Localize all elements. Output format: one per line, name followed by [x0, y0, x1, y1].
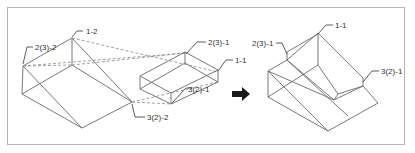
- label-mid-3-2-1: 3(2)-1: [188, 85, 210, 94]
- label-1-2: 1-2: [86, 27, 98, 36]
- label-mid-1-1: 1-1: [235, 56, 247, 65]
- label-3-2-2: 3(2)-2: [147, 113, 169, 122]
- assembly-diagram: 2(3)-2 1-2 3(2)-2 2(3)-1 1-1 3(2)-1 1-1 …: [0, 0, 415, 153]
- label-right-2-3-1: 2(3)-1: [252, 39, 274, 48]
- label-right-3-2-1: 3(2)-1: [381, 67, 403, 76]
- annotation-labels: 2(3)-2 1-2 3(2)-2 2(3)-1 1-1 3(2)-1 1-1 …: [23, 21, 403, 122]
- label-2-3-2: 2(3)-2: [35, 43, 57, 52]
- middle-box-shape: [140, 52, 218, 104]
- right-arrow-icon: [232, 87, 250, 101]
- label-right-1-1: 1-1: [335, 21, 347, 30]
- label-mid-2-3-1: 2(3)-1: [208, 38, 230, 47]
